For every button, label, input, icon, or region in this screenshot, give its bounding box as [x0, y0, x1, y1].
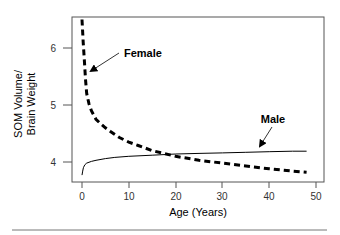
chart: 4 5 6 0 10 20 30 40 50 Age (Years) SOM V…	[0, 0, 340, 235]
x-tick-label: 0	[79, 191, 85, 202]
x-tick-label: 30	[216, 191, 228, 202]
x-tick-label: 40	[263, 191, 275, 202]
y-axis-title-line2: Brain Weight	[25, 73, 37, 136]
female-arrow-icon	[91, 53, 119, 71]
y-axis-title: SOM Volume/ Brain Weight	[12, 69, 37, 138]
y-tick-label: 6	[50, 43, 56, 54]
male-annotation-label: Male	[261, 113, 285, 125]
male-series-line	[82, 151, 307, 175]
y-axis-title-line1: SOM Volume/	[12, 69, 24, 138]
x-tick-label: 10	[123, 191, 135, 202]
female-annotation-label: Female	[124, 47, 162, 59]
y-axis: 4 5 6	[50, 43, 72, 168]
male-arrow-icon	[260, 127, 272, 146]
female-series-line	[82, 20, 307, 173]
plot-frame	[72, 17, 324, 182]
y-tick-label: 5	[50, 100, 56, 111]
x-axis: 0 10 20 30 40 50	[79, 182, 322, 202]
x-tick-label: 50	[310, 191, 322, 202]
y-tick-label: 4	[50, 157, 56, 168]
x-axis-title: Age (Years)	[169, 206, 227, 218]
x-tick-label: 20	[170, 191, 182, 202]
